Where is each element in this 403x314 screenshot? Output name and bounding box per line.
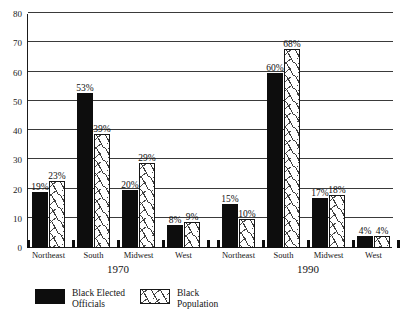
bar-value-label: 15%	[221, 194, 238, 204]
bar-value-label: 19%	[31, 182, 48, 192]
solid-black-swatch	[35, 289, 65, 304]
y-tick-label-70: 70	[13, 39, 22, 48]
y-tick-label-0: 0	[18, 244, 23, 253]
gridline-80	[28, 12, 393, 13]
bar-elected-1970-south: 53%	[77, 93, 93, 248]
bar-value-label: 29%	[138, 153, 155, 163]
y-tick-label-10: 10	[13, 214, 22, 223]
y-tick-label-20: 20	[13, 185, 22, 194]
legend-label-line2: Officials	[72, 299, 125, 310]
hatched-white-swatch	[140, 289, 170, 304]
bar-population-1990-northeast: 10%	[239, 219, 255, 248]
bar-value-label: 39%	[93, 124, 110, 134]
x-tick-label-1970-northeast: Northeast	[32, 250, 65, 261]
bar-value-label: 20%	[121, 180, 138, 190]
x-tick-label-1990-northeast: Northeast	[222, 250, 255, 261]
bar-population-1970-south: 39%	[94, 134, 110, 248]
axis-tick-mark	[262, 240, 265, 248]
bar-elected-1990-northeast: 15%	[222, 204, 238, 248]
bar-elected-1970-west: 8%	[167, 225, 183, 248]
bar-population-1970-midwest: 29%	[139, 163, 155, 248]
legend-label-population: Black Population	[177, 288, 218, 309]
x-axis-group-labels: 19701990	[27, 263, 392, 277]
axis-tick-mark	[397, 240, 400, 248]
x-axis-category-labels: NortheastSouthMidwestWestNortheastSouthM…	[27, 250, 392, 263]
axis-tick-mark	[72, 240, 75, 248]
bar-value-label: 68%	[283, 39, 300, 49]
legend-item-black-population: Black Population	[140, 288, 218, 309]
x-tick-label-1990-midwest: Midwest	[314, 250, 344, 261]
axis-tick-mark	[207, 240, 210, 248]
bar-population-1970-west: 9%	[184, 222, 200, 248]
bar-value-label: 4%	[376, 226, 389, 236]
axis-tick-mark	[27, 240, 30, 248]
chart-legend: Black Elected Officials Black Population	[0, 285, 403, 313]
x-tick-label-1970-south: South	[84, 250, 104, 261]
bar-elected-1970-midwest: 20%	[122, 190, 138, 249]
y-tick-label-50: 50	[13, 97, 22, 106]
bar-elected-1990-midwest: 17%	[312, 198, 328, 248]
y-tick-label-30: 30	[13, 156, 22, 165]
legend-label-line2: Population	[177, 299, 218, 310]
y-tick-label-80: 80	[13, 10, 22, 19]
bar-value-label: 9%	[186, 212, 199, 222]
x-tick-label-1970-midwest: Midwest	[124, 250, 154, 261]
bar-elected-1970-northeast: 19%	[32, 192, 48, 248]
x-tick-label-1990-south: South	[274, 250, 294, 261]
axis-tick-mark	[117, 240, 120, 248]
legend-label-elected-officials: Black Elected Officials	[72, 288, 125, 309]
bar-value-label: 10%	[238, 209, 255, 219]
axis-tick-mark	[352, 240, 355, 248]
axis-tick-mark	[162, 240, 165, 248]
bar-elected-1990-west: 4%	[357, 236, 373, 248]
bar-value-label: 4%	[359, 226, 372, 236]
bar-elected-1990-south: 60%	[267, 73, 283, 249]
axis-tick-mark	[307, 240, 310, 248]
bar-value-label: 18%	[328, 185, 345, 195]
x-tick-label-1990-west: West	[365, 250, 382, 261]
y-tick-label-40: 40	[13, 127, 22, 136]
bar-population-1990-west: 4%	[374, 236, 390, 248]
bar-value-label: 53%	[76, 83, 93, 93]
bar-value-label: 23%	[48, 171, 65, 181]
axis-tick-mark	[217, 240, 220, 248]
bars-layer: 19%23%53%39%20%29%8%9%15%10%60%68%17%18%…	[27, 14, 392, 248]
legend-label-line1: Black Elected	[72, 288, 125, 298]
bar-population-1990-south: 68%	[284, 49, 300, 248]
bar-population-1990-midwest: 18%	[329, 195, 345, 248]
bar-population-1970-northeast: 23%	[49, 181, 65, 248]
bar-value-label: 8%	[169, 215, 182, 225]
y-tick-label-60: 60	[13, 68, 22, 77]
legend-label-line1: Black	[177, 288, 199, 298]
x-tick-label-1970-west: West	[175, 250, 192, 261]
bar-value-label: 17%	[311, 188, 328, 198]
bar-value-label: 60%	[266, 63, 283, 73]
group-label-1990: 1990	[297, 263, 319, 276]
bar-chart: 01020304050607080 19%23%53%39%20%29%8%9%…	[0, 0, 403, 314]
legend-item-black-elected-officials: Black Elected Officials	[35, 288, 125, 309]
group-label-1970: 1970	[107, 263, 129, 276]
